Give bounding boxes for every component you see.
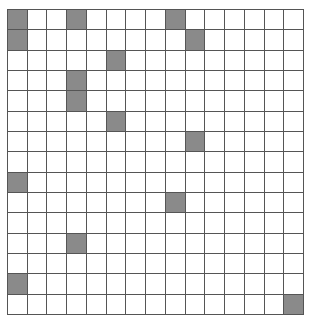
grid-cell[interactable] xyxy=(166,30,186,50)
grid-cell[interactable] xyxy=(245,193,265,213)
grid-cell-filled[interactable] xyxy=(8,274,28,294)
grid-cell[interactable] xyxy=(47,234,67,254)
grid-cell[interactable] xyxy=(28,254,48,274)
grid-cell[interactable] xyxy=(107,71,127,91)
grid-cell[interactable] xyxy=(205,173,225,193)
grid-cell[interactable] xyxy=(67,152,87,172)
grid-cell[interactable] xyxy=(126,234,146,254)
grid-cell[interactable] xyxy=(186,173,206,193)
grid-cell[interactable] xyxy=(245,10,265,30)
grid-cell-filled[interactable] xyxy=(107,112,127,132)
grid-cell[interactable] xyxy=(28,51,48,71)
grid-cell[interactable] xyxy=(284,132,304,152)
grid-cell[interactable] xyxy=(245,295,265,315)
grid-cell-filled[interactable] xyxy=(8,10,28,30)
grid-cell[interactable] xyxy=(166,173,186,193)
grid-cell[interactable] xyxy=(146,173,166,193)
grid-cell[interactable] xyxy=(186,193,206,213)
grid-cell-filled[interactable] xyxy=(186,30,206,50)
grid-cell[interactable] xyxy=(126,30,146,50)
grid-cell[interactable] xyxy=(245,173,265,193)
grid-cell[interactable] xyxy=(146,91,166,111)
grid-cell[interactable] xyxy=(166,295,186,315)
grid-cell[interactable] xyxy=(245,91,265,111)
grid-cell[interactable] xyxy=(186,10,206,30)
grid-cell[interactable] xyxy=(166,254,186,274)
grid-cell[interactable] xyxy=(87,132,107,152)
grid-cell[interactable] xyxy=(28,132,48,152)
grid-cell[interactable] xyxy=(284,10,304,30)
grid-cell-filled[interactable] xyxy=(166,193,186,213)
grid-cell[interactable] xyxy=(166,71,186,91)
grid-cell[interactable] xyxy=(225,234,245,254)
grid-cell[interactable] xyxy=(166,112,186,132)
grid-cell[interactable] xyxy=(284,274,304,294)
grid-cell[interactable] xyxy=(265,193,285,213)
grid-cell[interactable] xyxy=(47,51,67,71)
grid-cell[interactable] xyxy=(28,152,48,172)
grid-cell[interactable] xyxy=(107,132,127,152)
grid-cell[interactable] xyxy=(28,213,48,233)
grid-cell[interactable] xyxy=(186,51,206,71)
grid-cell[interactable] xyxy=(28,30,48,50)
grid-cell[interactable] xyxy=(47,254,67,274)
grid-cell[interactable] xyxy=(146,51,166,71)
grid-cell-filled[interactable] xyxy=(8,173,28,193)
grid-cell[interactable] xyxy=(225,10,245,30)
grid-cell[interactable] xyxy=(47,71,67,91)
grid-cell[interactable] xyxy=(87,213,107,233)
grid-cell[interactable] xyxy=(47,152,67,172)
grid-cell[interactable] xyxy=(107,10,127,30)
grid-cell[interactable] xyxy=(205,274,225,294)
grid-cell[interactable] xyxy=(8,71,28,91)
grid-cell[interactable] xyxy=(205,193,225,213)
grid-cell[interactable] xyxy=(284,254,304,274)
grid-cell[interactable] xyxy=(225,71,245,91)
grid-cell[interactable] xyxy=(186,112,206,132)
grid-cell[interactable] xyxy=(186,91,206,111)
grid-cell[interactable] xyxy=(28,173,48,193)
grid-cell[interactable] xyxy=(245,132,265,152)
grid-cell[interactable] xyxy=(67,173,87,193)
grid-cell[interactable] xyxy=(146,112,166,132)
grid-cell[interactable] xyxy=(87,173,107,193)
grid-cell[interactable] xyxy=(265,152,285,172)
grid-cell[interactable] xyxy=(146,132,166,152)
grid-cell-filled[interactable] xyxy=(67,71,87,91)
grid-cell[interactable] xyxy=(265,51,285,71)
grid-cell[interactable] xyxy=(87,193,107,213)
grid-cell[interactable] xyxy=(186,71,206,91)
grid-cell[interactable] xyxy=(107,213,127,233)
grid-cell[interactable] xyxy=(225,254,245,274)
grid-cell-filled[interactable] xyxy=(284,295,304,315)
grid-cell[interactable] xyxy=(186,234,206,254)
grid-cell[interactable] xyxy=(284,193,304,213)
grid-cell[interactable] xyxy=(146,295,166,315)
grid-cell[interactable] xyxy=(146,30,166,50)
grid-cell[interactable] xyxy=(47,30,67,50)
grid-cell[interactable] xyxy=(146,152,166,172)
grid-cell[interactable] xyxy=(87,30,107,50)
grid-cell[interactable] xyxy=(28,193,48,213)
grid-cell[interactable] xyxy=(205,132,225,152)
grid-cell[interactable] xyxy=(225,132,245,152)
grid-cell-filled[interactable] xyxy=(67,10,87,30)
grid-cell[interactable] xyxy=(225,152,245,172)
grid-cell-filled[interactable] xyxy=(67,91,87,111)
grid-cell[interactable] xyxy=(166,213,186,233)
grid-cell[interactable] xyxy=(28,295,48,315)
grid-cell[interactable] xyxy=(8,112,28,132)
grid-cell[interactable] xyxy=(67,112,87,132)
grid-cell[interactable] xyxy=(8,51,28,71)
grid-cell[interactable] xyxy=(265,295,285,315)
grid-cell[interactable] xyxy=(8,213,28,233)
grid-cell[interactable] xyxy=(107,30,127,50)
grid-cell[interactable] xyxy=(67,295,87,315)
grid-cell[interactable] xyxy=(67,254,87,274)
grid-cell[interactable] xyxy=(146,10,166,30)
grid-cell[interactable] xyxy=(284,213,304,233)
grid-cell[interactable] xyxy=(28,71,48,91)
grid-cell[interactable] xyxy=(107,91,127,111)
grid-cell[interactable] xyxy=(87,91,107,111)
grid-cell[interactable] xyxy=(166,274,186,294)
